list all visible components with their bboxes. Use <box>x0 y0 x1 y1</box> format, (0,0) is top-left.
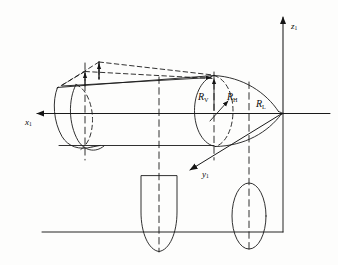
forward-ring-hidden <box>214 76 233 147</box>
axis-label-z1: z1 <box>291 22 297 32</box>
dim-arrow-RH <box>210 101 228 121</box>
aft-rim-hidden <box>76 85 93 151</box>
nose-ellipsoid <box>195 76 284 147</box>
diagram-svg <box>0 0 338 265</box>
wedge-apex-arrow <box>85 64 99 86</box>
diagram-canvas: x1 z1 y1 RV RH RL <box>0 0 338 265</box>
aft-section-curve <box>70 85 104 151</box>
body-outline <box>54 76 214 149</box>
construction-wedge <box>57 62 213 88</box>
axis-y1 <box>190 114 282 171</box>
dimension-label-rh: RH <box>227 92 238 103</box>
projection-centerlines <box>85 63 249 252</box>
dimension-label-rv: RV <box>198 92 209 103</box>
axis-label-x1: x1 <box>25 118 32 128</box>
wedge-leading-edge <box>62 62 211 86</box>
axis-label-y1: y1 <box>202 170 209 180</box>
dimension-label-rl: RL <box>256 99 266 110</box>
